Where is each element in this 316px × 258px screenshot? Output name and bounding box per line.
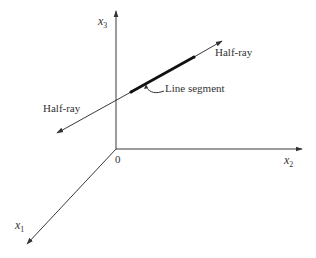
x3-label: x3 — [97, 14, 107, 30]
diagram-canvas: x3 x2 x1 0 Half-ray Half-ray Line segmen… — [0, 0, 316, 258]
line-segment-label: Line segment — [165, 82, 225, 94]
half-ray-right-label: Half-ray — [215, 46, 253, 58]
segment-endpoint-left — [129, 90, 132, 93]
diagram-svg: x3 x2 x1 0 Half-ray Half-ray Line segmen… — [0, 0, 316, 258]
half-ray-left-label: Half-ray — [43, 102, 81, 114]
x1-label: x1 — [14, 218, 24, 234]
segment-pointer-icon — [146, 87, 164, 93]
x1-axis — [27, 149, 116, 244]
x2-label: x2 — [283, 153, 293, 169]
segment-endpoint-right — [192, 55, 195, 58]
origin-label: 0 — [115, 153, 121, 165]
